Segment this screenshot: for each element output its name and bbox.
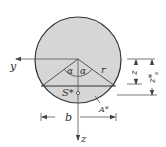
svg-text:s: s: [152, 72, 159, 75]
cross-section-diagram: y z α α r S* A* b z z* s: [0, 0, 166, 147]
y-axis-label: y: [9, 60, 17, 73]
centroid-marker: [76, 91, 79, 94]
centroid-label: S*: [62, 87, 74, 98]
dim-z-label: z: [129, 70, 139, 76]
angle-right-label: α: [80, 66, 86, 76]
width-label: b: [65, 111, 72, 124]
angle-left-label: α: [67, 66, 73, 76]
dim-zs-label: z* s: [147, 72, 159, 84]
z-axis-label: z: [80, 133, 87, 144]
area-label: A*: [98, 105, 109, 114]
